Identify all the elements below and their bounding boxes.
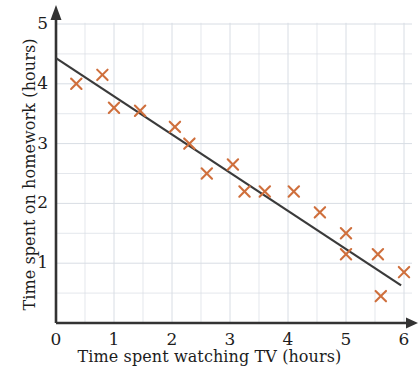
x-tick-label: 0: [44, 329, 68, 349]
x-tick-label: 6: [392, 329, 416, 349]
data-point-marker: [289, 186, 299, 196]
major-gridlines: [56, 23, 412, 323]
x-tick-label: 1: [102, 329, 126, 349]
data-point-marker: [376, 291, 386, 301]
x-axis-title: Time spent watching TV (hours): [0, 347, 419, 366]
scatter-chart: 0123456 12345 Time spent watching TV (ho…: [0, 0, 419, 374]
y-axis-title: Time spent on homework (hours): [20, 10, 39, 340]
minor-gridlines: [56, 23, 412, 323]
data-point-marker: [170, 122, 180, 132]
data-point-marker: [239, 186, 249, 196]
x-tick-label: 2: [160, 329, 184, 349]
data-point-marker: [315, 207, 325, 217]
data-point-marker: [97, 70, 107, 80]
x-tick-label: 5: [334, 329, 358, 349]
plot-area: [0, 0, 419, 374]
data-point-marker: [228, 159, 238, 169]
x-tick-label: 3: [218, 329, 242, 349]
x-tick-label: 4: [276, 329, 300, 349]
data-points: [71, 70, 409, 302]
data-point-marker: [373, 249, 383, 259]
